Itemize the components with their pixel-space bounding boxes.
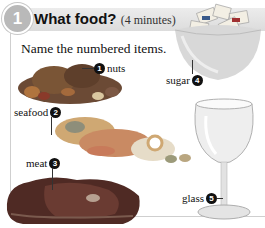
label-sugar: sugar4	[166, 74, 203, 86]
label-meat-text: meat	[26, 157, 47, 169]
badge-number-1: 1	[94, 63, 105, 74]
label-seafood: seafood2	[14, 106, 61, 118]
leader-line-glass	[217, 198, 223, 199]
instruction-text: Name the numbered items.	[21, 41, 166, 57]
sugar-bowl-image	[172, 2, 264, 84]
label-sugar-text: sugar	[166, 74, 190, 86]
badge-number-3: 3	[49, 158, 60, 169]
badge-number-2: 2	[50, 107, 61, 118]
duration-text: (4 minutes)	[121, 13, 176, 27]
leader-line-meat	[52, 168, 53, 190]
label-meat: meat3	[26, 157, 60, 169]
seafood-image	[45, 113, 193, 169]
label-seafood-text: seafood	[14, 106, 48, 118]
exercise-number: 1	[2, 3, 33, 34]
exercise-title: What food? (4 minutes)	[34, 10, 176, 28]
title-text: What food?	[34, 10, 116, 27]
leader-line-nuts	[82, 68, 94, 69]
leader-line-sugar	[192, 60, 193, 74]
badge-number-4: 4	[192, 75, 203, 86]
badge-number-5: 5	[206, 193, 217, 204]
meat-image	[5, 170, 143, 226]
leader-line-seafood	[51, 117, 52, 135]
label-nuts: 1nuts	[94, 62, 125, 74]
label-glass: glass5	[182, 192, 217, 204]
label-glass-text: glass	[182, 192, 204, 204]
label-nuts-text: nuts	[107, 62, 125, 74]
